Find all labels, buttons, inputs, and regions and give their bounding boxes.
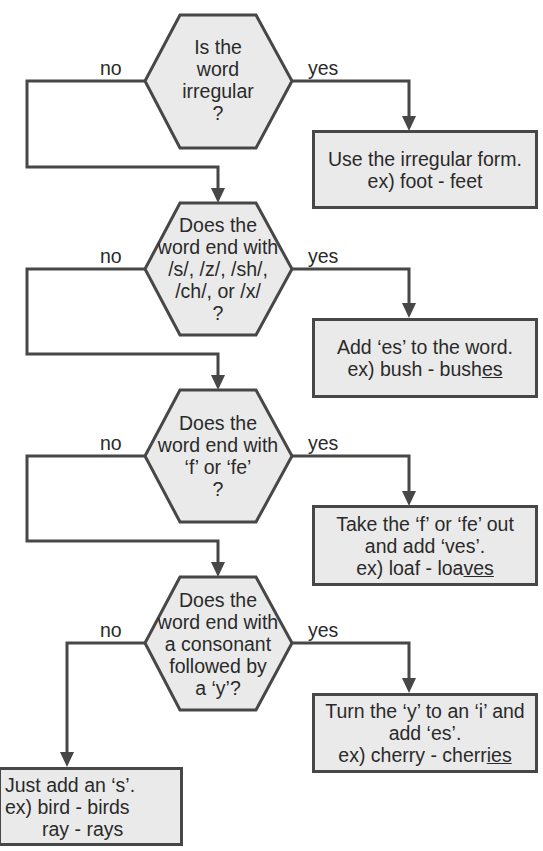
decision-line: /s/, /z/, /sh/, bbox=[150, 258, 286, 280]
decision-line: word end with bbox=[150, 236, 286, 258]
arrowhead-icon bbox=[402, 491, 416, 506]
outcome-irregular: Use the irregular form. ex) foot - feet bbox=[312, 130, 538, 209]
arrowhead-icon bbox=[60, 752, 74, 767]
decision-f-fe: Does the word end with ‘f’ or ‘fe’ ? bbox=[150, 412, 286, 500]
outcome-example: ex) loaf - loaves bbox=[336, 557, 514, 579]
decision-line: a ‘y’? bbox=[150, 677, 286, 699]
outcome-y-to-ies: Turn the ‘y’ to an ‘i’ and add ‘es’. ex)… bbox=[312, 693, 538, 773]
decision-consonant-y: Does the word end with a consonant follo… bbox=[150, 589, 286, 699]
yes-label: yes bbox=[308, 619, 338, 642]
outcome-example: ex) foot - feet bbox=[328, 170, 522, 192]
outcome-example: ex) cherry - cherries bbox=[325, 744, 524, 766]
outcome-line: Add ‘es’ to the word. bbox=[337, 336, 513, 358]
decision-s-z-sh-ch-x: Does the word end with /s/, /z/, /sh/, /… bbox=[150, 214, 286, 324]
yes-label: yes bbox=[308, 432, 338, 455]
arrowhead-icon bbox=[402, 116, 416, 131]
decision-line: a consonant bbox=[150, 633, 286, 655]
yes-label: yes bbox=[308, 245, 338, 268]
outcome-line: Use the irregular form. bbox=[328, 148, 522, 170]
outcome-add-es: Add ‘es’ to the word. ex) bush - bushes bbox=[312, 318, 538, 398]
outcome-example: ex) bush - bushes bbox=[337, 358, 513, 380]
decision-line: ? bbox=[150, 478, 286, 500]
example-suffix: es bbox=[482, 358, 503, 380]
no-label: no bbox=[100, 619, 122, 642]
example-text: ex) bush - bush bbox=[347, 358, 481, 380]
yes-label: yes bbox=[308, 57, 338, 80]
decision-line: word end with bbox=[150, 611, 286, 633]
outcome-line: ray - rays bbox=[5, 818, 135, 840]
arrowhead-icon bbox=[211, 188, 225, 203]
arrowhead-icon bbox=[402, 303, 416, 318]
outcome-line: Take the ‘f’ or ‘fe’ out bbox=[336, 513, 514, 535]
decision-line: Does the bbox=[150, 214, 286, 236]
decision-line: Does the bbox=[150, 412, 286, 434]
outcome-line: Just add an ‘s’. bbox=[5, 774, 135, 796]
example-text: ex) foot - feet bbox=[368, 170, 483, 192]
decision-line: followed by bbox=[150, 655, 286, 677]
example-suffix: ves bbox=[463, 557, 493, 579]
arrowhead-icon bbox=[402, 678, 416, 693]
decision-line: ? bbox=[150, 102, 286, 124]
no-label: no bbox=[100, 57, 122, 80]
decision-line: irregular bbox=[150, 80, 286, 102]
example-text: ex) cherry - cherr bbox=[338, 744, 486, 766]
decision-line: Does the bbox=[150, 589, 286, 611]
arrowhead-icon bbox=[211, 562, 225, 577]
decision-line: /ch/, or /x/ bbox=[150, 280, 286, 302]
example-suffix: ies bbox=[487, 744, 512, 766]
arrowhead-icon bbox=[211, 375, 225, 390]
decision-irregular: Is the word irregular ? bbox=[150, 36, 286, 124]
decision-line: ? bbox=[150, 302, 286, 324]
outcome-line: Turn the ‘y’ to an ‘i’ and bbox=[325, 700, 524, 722]
decision-line: word bbox=[150, 58, 286, 80]
outcome-add-s: Just add an ‘s’. ex) bird - birds ray - … bbox=[0, 767, 183, 846]
outcome-ves: Take the ‘f’ or ‘fe’ out and add ‘ves’. … bbox=[312, 505, 538, 586]
decision-line: ‘f’ or ‘fe’ bbox=[150, 456, 286, 478]
decision-line: Is the bbox=[150, 36, 286, 58]
outcome-line: add ‘es’. bbox=[325, 722, 524, 744]
example-text: ex) loaf - loa bbox=[356, 557, 463, 579]
no-label: no bbox=[100, 245, 122, 268]
decision-line: word end with bbox=[150, 434, 286, 456]
outcome-line: and add ‘ves’. bbox=[336, 535, 514, 557]
no-label: no bbox=[100, 432, 122, 455]
outcome-line: ex) bird - birds bbox=[5, 796, 135, 818]
